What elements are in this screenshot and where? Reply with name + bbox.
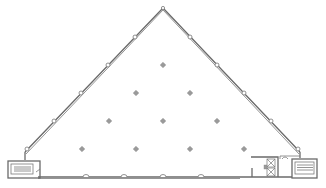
- right-stair-core: [280, 156, 317, 178]
- floor-plan-drawing: [0, 0, 326, 188]
- interior-columns: [79, 62, 247, 152]
- outer-walls: [25, 8, 300, 179]
- elevator-core: [251, 157, 278, 177]
- left-stair-core: [8, 161, 40, 178]
- perimeter-columns: [25, 6, 300, 177]
